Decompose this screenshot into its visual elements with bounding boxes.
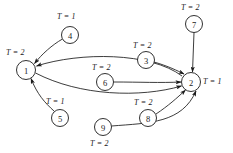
edge-7-to-2 [193, 33, 195, 73]
node-7-label: 7 [192, 20, 196, 30]
node-8-label: 8 [146, 114, 150, 124]
t-annotation-node-7: T = 2 [181, 3, 200, 12]
node-3[interactable]: 3 [138, 52, 155, 69]
node-7[interactable]: 7 [186, 16, 203, 33]
graph-diagram: 1 2 3 4 5 6 7 [0, 0, 233, 153]
node-5[interactable]: 5 [52, 110, 69, 127]
node-2[interactable]: 2 [182, 73, 201, 92]
t-annotation-node-2: T = 1 [203, 77, 222, 86]
graph-canvas: 1 2 3 4 5 6 7 [0, 0, 233, 153]
node-6-label: 6 [103, 78, 107, 88]
node-8[interactable]: 8 [140, 110, 157, 127]
node-6[interactable]: 6 [97, 74, 114, 91]
t-annotation-node-1: T = 2 [6, 48, 25, 57]
edge-4-to-1 [35, 39, 63, 64]
node-1-label: 1 [24, 66, 28, 76]
node-4[interactable]: 4 [62, 27, 79, 44]
edge-5-to-1 [31, 79, 54, 112]
node-layer: 1 2 3 4 5 6 7 [17, 16, 203, 136]
t-annotation-node-6: T = 2 [92, 63, 111, 72]
node-9[interactable]: 9 [95, 119, 112, 136]
t-annotation-node-4: T = 1 [57, 12, 76, 21]
node-1[interactable]: 1 [17, 61, 36, 80]
t-annotation-node-9: T = 2 [90, 139, 109, 148]
node-2-label: 2 [189, 78, 193, 88]
node-9-label: 9 [101, 123, 105, 133]
node-5-label: 5 [58, 114, 62, 124]
t-annotation-node-8: T = 2 [134, 98, 153, 107]
t-annotation-node-5: T = 1 [46, 97, 65, 106]
t-annotation-node-3: T = 2 [133, 41, 152, 50]
node-3-label: 3 [144, 56, 148, 66]
